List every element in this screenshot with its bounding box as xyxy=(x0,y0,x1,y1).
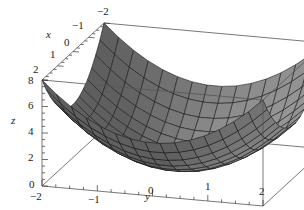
paraboloid-surface xyxy=(42,23,304,172)
box-edge xyxy=(58,66,64,67)
y-tick-label: 2 xyxy=(259,185,265,197)
box-edge xyxy=(89,37,95,38)
z-tick-label: 8 xyxy=(28,74,34,86)
box-edge xyxy=(42,80,48,81)
x-tick-label: 0 xyxy=(64,36,70,48)
x-tick-label: 1 xyxy=(50,48,56,60)
surface-plot: −2 −1 0 1 2 x 8 6 4 2 0 z −2 −1 0 1 2 y xyxy=(0,0,304,210)
box-edge xyxy=(104,23,110,24)
x-tick-label: 2 xyxy=(33,63,39,75)
y-tick-label: −1 xyxy=(88,193,100,205)
y-tick-label: 1 xyxy=(205,180,211,192)
z-tick-label: 4 xyxy=(28,125,34,137)
z-axis-label: z xyxy=(10,114,16,126)
z-tick-label: 6 xyxy=(28,99,34,111)
surface-patch xyxy=(42,80,61,104)
box-edge xyxy=(104,23,304,43)
x-tick-label: −1 xyxy=(72,19,84,31)
box-edge xyxy=(263,149,304,206)
z-tick-label: 2 xyxy=(28,151,34,163)
x-axis-label: x xyxy=(45,28,51,40)
y-tick-label: −2 xyxy=(30,190,42,202)
box-edge xyxy=(73,52,79,53)
y-axis-label: y xyxy=(144,190,150,202)
z-tick-label: 0 xyxy=(29,178,35,190)
x-tick-label: −2 xyxy=(97,5,109,17)
